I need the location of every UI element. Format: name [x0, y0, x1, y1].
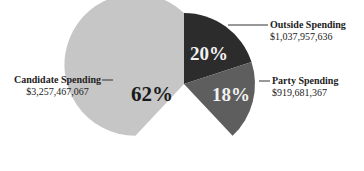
label-outside-spending: Outside Spending $1,037,957,636 [270, 19, 346, 43]
label-outside-amount: $1,037,957,636 [270, 31, 346, 43]
percent-candidate: 62% [131, 82, 173, 106]
label-candidate-name: Candidate Spending [14, 74, 101, 86]
slice-candidate-spending [64, 0, 184, 136]
label-candidate-amount: $3,257,467,067 [14, 86, 101, 98]
label-party-spending: Party Spending $919,681,367 [272, 75, 338, 99]
label-party-amount: $919,681,367 [272, 87, 338, 99]
label-party-name: Party Spending [272, 75, 338, 87]
label-outside-name: Outside Spending [270, 19, 346, 31]
label-candidate-spending: Candidate Spending $3,257,467,067 [14, 74, 101, 98]
percent-party: 18% [212, 84, 250, 105]
percent-outside: 20% [190, 43, 228, 64]
